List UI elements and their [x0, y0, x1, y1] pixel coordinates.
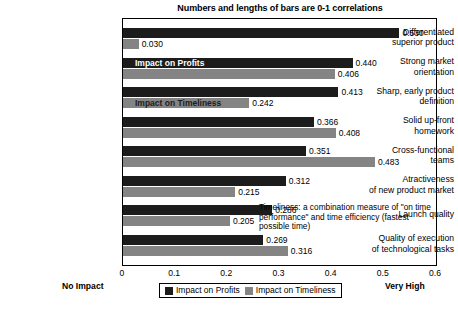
chart-legend: Impact on Profits Impact on Timeliness	[159, 283, 342, 298]
inline-timeliness-label: Impact on Timeliness	[135, 98, 221, 108]
category-label-line: definition	[340, 96, 454, 107]
category-label: Cross-functionalteams	[340, 145, 458, 166]
bar-value-label: 0.030	[142, 39, 163, 49]
bar-value-label: 0.316	[291, 246, 312, 256]
x-tick-label: 0	[107, 268, 137, 278]
category-label: Solid up-fronthomework	[340, 115, 458, 136]
category-label-line: Atractiveness	[340, 174, 454, 185]
bar-timeliness[interactable]	[123, 246, 288, 256]
category-label-line: orientation	[340, 67, 454, 78]
chart-container: Numbers and lengths of bars are 0-1 corr…	[0, 0, 458, 314]
category-label-line: superior product	[340, 37, 454, 48]
category-label-line: of new product market	[340, 185, 454, 196]
legend-label-profits: Impact on Profits	[176, 286, 240, 295]
bar-profits[interactable]	[123, 146, 306, 156]
category-label: Strong marketorientation	[340, 56, 458, 77]
bar-timeliness[interactable]	[123, 69, 335, 79]
bar-value-label: 0.215	[238, 187, 259, 197]
x-tick-label: 0.6	[420, 268, 450, 278]
category-label: Quality of executionof technological tas…	[340, 233, 458, 254]
x-tick-label: 0.5	[368, 268, 398, 278]
bar-value-label: 0.242	[252, 98, 273, 108]
legend-label-timeliness: Impact on Timeliness	[256, 286, 336, 295]
x-tick-label: 0.2	[211, 268, 241, 278]
bar-value-label: 0.205	[233, 216, 254, 226]
bar-value-label: 0.269	[266, 235, 287, 245]
category-label-line: Cross-functional	[340, 145, 454, 156]
bar-timeliness[interactable]	[123, 39, 139, 49]
timeliness-definition-note: Timeliness: a combination measure of "on…	[259, 203, 435, 232]
bar-profits[interactable]	[123, 176, 286, 186]
bar-value-label: 0.312	[289, 176, 310, 186]
category-label: Sharp, early productdefinition	[340, 86, 458, 107]
x-tick-label: 0.3	[264, 268, 294, 278]
chart-title: Numbers and lengths of bars are 0-1 corr…	[122, 3, 438, 13]
axis-end-label-right: Very High	[385, 281, 425, 291]
category-label: Atractivenessof new product market	[340, 174, 458, 195]
legend-item-timeliness[interactable]: Impact on Timeliness	[245, 286, 336, 295]
bar-timeliness[interactable]	[123, 128, 336, 138]
legend-swatch-icon-timeliness	[245, 287, 253, 295]
category-label-line: Sharp, early product	[340, 86, 454, 97]
x-tick-label: 0.4	[316, 268, 346, 278]
inline-profits-label: Impact on Profits	[135, 58, 204, 68]
bar-value-label: 0.366	[317, 117, 338, 127]
axis-end-label-left: No Impact	[62, 281, 104, 291]
category-label-line: homework	[340, 126, 454, 137]
legend-swatch-icon-profits	[165, 287, 173, 295]
category-label: Differentiatedsuperior product	[340, 27, 458, 48]
legend-item-profits[interactable]: Impact on Profits	[165, 286, 240, 295]
category-label-line: Differentiated	[340, 27, 454, 38]
category-label-line: of technological tasks	[340, 244, 454, 255]
bar-value-label: 0.351	[309, 146, 330, 156]
bar-profits[interactable]	[123, 117, 314, 127]
bar-timeliness[interactable]	[123, 157, 375, 167]
bar-profits[interactable]	[123, 87, 338, 97]
bar-timeliness[interactable]	[123, 187, 235, 197]
x-tick-label: 0.1	[159, 268, 189, 278]
bar-timeliness[interactable]	[123, 216, 230, 226]
category-label-line: Strong market	[340, 56, 454, 67]
bar-profits[interactable]	[123, 205, 272, 215]
bar-profits[interactable]	[123, 235, 263, 245]
category-label-line: Quality of execution	[340, 233, 454, 244]
category-label-line: Solid up-front	[340, 115, 454, 126]
category-label-line: teams	[340, 155, 454, 166]
